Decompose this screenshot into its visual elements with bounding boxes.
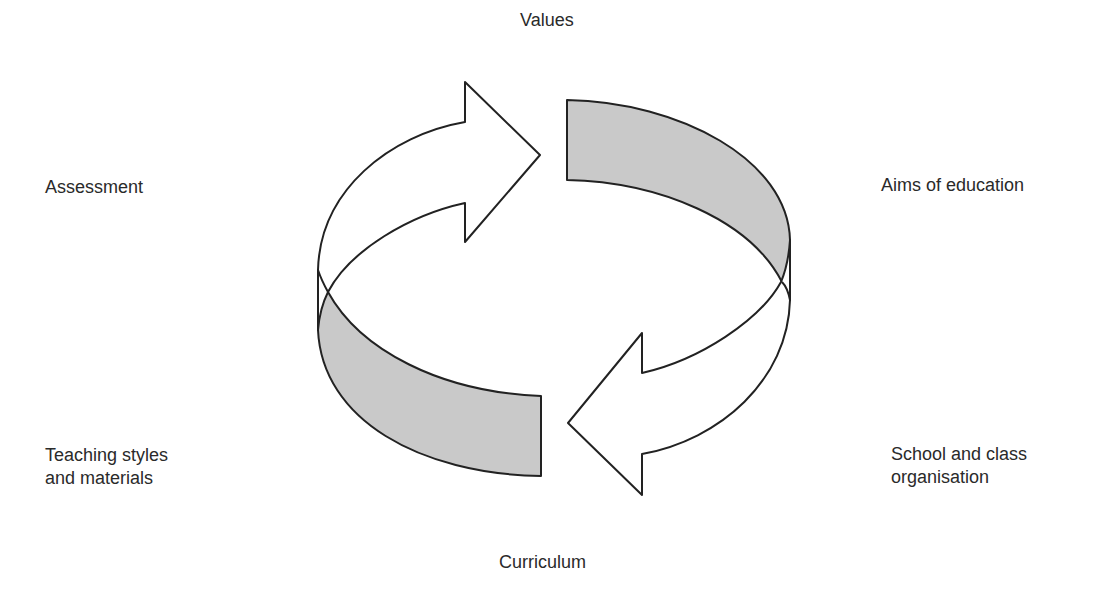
label-line: School and class: [891, 443, 1027, 466]
top-right-band: [567, 100, 790, 300]
cycle-graphic: [0, 0, 1106, 601]
label-assessment: Assessment: [45, 176, 143, 199]
label-teaching-styles-and-materials: Teaching styles and materials: [45, 444, 168, 490]
label-line: and materials: [45, 467, 168, 490]
label-line: Teaching styles: [45, 444, 168, 467]
label-curriculum: Curriculum: [499, 551, 586, 574]
label-values: Values: [520, 9, 574, 32]
label-line: organisation: [891, 466, 1027, 489]
cycle-diagram: Values Aims of education School and clas…: [0, 0, 1106, 601]
bottom-right-arrow: [568, 240, 790, 495]
bottom-left-band: [318, 270, 541, 476]
top-left-arrow: [318, 82, 540, 330]
label-aims-of-education: Aims of education: [881, 174, 1024, 197]
label-school-and-class-organisation: School and class organisation: [891, 443, 1027, 489]
